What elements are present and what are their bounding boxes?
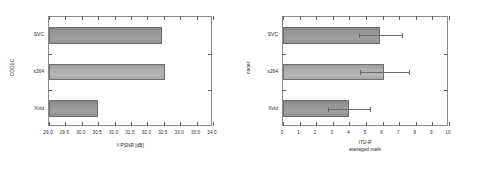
x-tick-top — [383, 16, 384, 20]
x-tick-label: 34.0 — [207, 130, 216, 135]
x-tick-label: 31.5 — [125, 130, 134, 135]
error-bar-xvid — [328, 109, 370, 110]
x-tick-label: 33.0 — [175, 130, 184, 135]
error-bar-cap — [328, 107, 329, 112]
x-tick — [383, 122, 384, 126]
x-tick — [197, 122, 198, 126]
plot-area-right — [282, 16, 448, 126]
x-tick — [399, 122, 400, 126]
error-bar-cap — [360, 70, 361, 75]
x-tick — [300, 122, 301, 126]
y-tick-label-xvid: Xvid — [256, 105, 278, 111]
panel-right-itur: codec 012345678910 SVCx264Xvid ITU-R ave… — [240, 0, 479, 172]
x-tick-label: 9 — [430, 130, 433, 135]
x-tick-label: 7 — [397, 130, 400, 135]
x-tick-label: 32.0 — [142, 130, 151, 135]
x-tick-top — [449, 16, 450, 20]
error-bar-svc — [359, 35, 401, 36]
bar-row — [49, 64, 211, 81]
x-tick — [316, 122, 317, 126]
y-tick-label-x264: x264 — [22, 68, 44, 74]
x-tick-top — [316, 16, 317, 20]
error-bar-cap — [359, 33, 360, 38]
x-tick-label: 30.5 — [93, 130, 102, 135]
y-tick-right — [208, 54, 212, 55]
x-tick-label: 3 — [330, 130, 333, 135]
x-axis-title-left: Y-PSNR [dB] — [48, 143, 212, 150]
x-tick — [115, 122, 116, 126]
error-bar-cap — [409, 70, 410, 75]
x-tick-label: 33.5 — [191, 130, 200, 135]
x-tick — [416, 122, 417, 126]
x-tick-top — [115, 16, 116, 20]
bar-xvid — [49, 100, 98, 117]
x-tick-label: 5 — [364, 130, 367, 135]
x-tick-top — [131, 16, 132, 20]
x-tick — [366, 122, 367, 126]
bar-row — [49, 100, 211, 117]
y-tick-right — [444, 54, 448, 55]
error-bar-cap — [402, 33, 403, 38]
y-axis-title-right: codec — [246, 44, 251, 92]
panel-left-ypsnr: CODEC 29.029.530.030.531.031.532.032.533… — [0, 0, 239, 172]
y-tick-right — [208, 90, 212, 91]
x-tick — [65, 122, 66, 126]
x-tick-top — [283, 16, 284, 20]
y-tick-label-x264: x264 — [256, 68, 278, 74]
bar-series-left — [49, 17, 211, 125]
x-tick — [180, 122, 181, 126]
x-tick — [49, 122, 50, 126]
x-tick-label: 4 — [347, 130, 350, 135]
x-tick — [98, 122, 99, 126]
x-tick-label: 0 — [281, 130, 284, 135]
x-tick — [82, 122, 83, 126]
y-tick-label-svc: SVC — [22, 31, 44, 37]
y-tick — [282, 90, 286, 91]
x-tick-top — [300, 16, 301, 20]
x-tick-top — [416, 16, 417, 20]
bar-svc — [49, 27, 162, 44]
error-bar-x264 — [360, 72, 409, 73]
x-tick-label: 29.0 — [43, 130, 52, 135]
x-tick-top — [49, 16, 50, 20]
y-axis-title-left: CODEC — [10, 44, 15, 92]
x-tick-label: 32.5 — [158, 130, 167, 135]
x-axis-title-right-text: averaged mark — [349, 147, 381, 152]
x-tick — [432, 122, 433, 126]
x-axis-title-left-text: Y-PSNR [dB] — [116, 143, 144, 148]
x-tick-top — [65, 16, 66, 20]
error-bar-cap — [370, 107, 371, 112]
bar-x264 — [49, 64, 165, 81]
x-tick — [349, 122, 350, 126]
x-axis-title-right: ITU-R averaged mark — [282, 140, 448, 153]
x-tick — [449, 122, 450, 126]
x-tick-top — [432, 16, 433, 20]
x-tick-label: 31.0 — [109, 130, 118, 135]
x-tick — [131, 122, 132, 126]
x-tick-label: 30.0 — [76, 130, 85, 135]
x-tick-top — [213, 16, 214, 20]
x-tick-top — [147, 16, 148, 20]
x-tick — [164, 122, 165, 126]
x-tick-label: 10 — [445, 130, 450, 135]
x-tick-top — [164, 16, 165, 20]
y-tick — [282, 54, 286, 55]
x-tick-top — [98, 16, 99, 20]
x-tick-label: 6 — [380, 130, 383, 135]
figure-two-panel-bar-charts: CODEC 29.029.530.030.531.031.532.032.533… — [0, 0, 479, 172]
x-tick-label: 2 — [314, 130, 317, 135]
y-tick — [48, 90, 52, 91]
x-tick-label: 8 — [413, 130, 416, 135]
x-tick-top — [366, 16, 367, 20]
x-tick-label: 29.5 — [60, 130, 69, 135]
x-tick-top — [197, 16, 198, 20]
x-tick — [333, 122, 334, 126]
y-tick — [48, 54, 52, 55]
x-tick-top — [333, 16, 334, 20]
x-tick — [283, 122, 284, 126]
x-tick-top — [399, 16, 400, 20]
x-tick — [147, 122, 148, 126]
y-tick-label-xvid: Xvid — [22, 105, 44, 111]
x-tick-top — [82, 16, 83, 20]
x-tick — [213, 122, 214, 126]
